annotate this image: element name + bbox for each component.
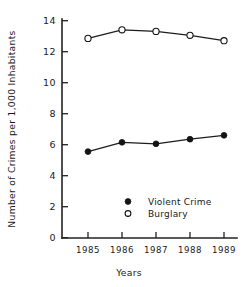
y-tick-label-10: 10 — [43, 77, 56, 88]
legend-open-circle-icon — [125, 211, 131, 217]
violent-crime-point-1988 — [187, 136, 193, 142]
chart-canvas: 14 12 10 8 6 4 2 0 1985 1986 1987 1988 1… — [0, 0, 245, 287]
series-violent-crime — [85, 132, 227, 154]
x-tick-label-1988: 1988 — [178, 245, 202, 255]
y-tick-label-6: 6 — [50, 139, 56, 150]
x-tick-label-1987: 1987 — [144, 245, 168, 255]
legend-entry-burglary: Burglary — [125, 209, 188, 219]
violent-crime-point-1989 — [221, 132, 227, 138]
y-axis-title: Number of Crimes per 1,000 Inhabitants — [6, 30, 17, 227]
chart-legend: Violent Crime Burglary — [125, 197, 212, 219]
y-tick-label-8: 8 — [50, 108, 56, 119]
y-tick-label-14: 14 — [43, 15, 56, 26]
burglary-point-1985 — [85, 35, 91, 41]
violent-crime-point-1987 — [153, 141, 159, 147]
x-axis-ticks — [88, 232, 224, 238]
y-tick-label-12: 12 — [43, 46, 56, 57]
legend-entry-violent-crime: Violent Crime — [125, 197, 212, 207]
x-tick-label-1989: 1989 — [212, 245, 236, 255]
burglary-point-1986 — [119, 27, 125, 33]
legend-filled-circle-icon — [125, 199, 131, 205]
x-axis-tick-labels: 1985 1986 1987 1988 1989 — [76, 245, 236, 255]
burglary-point-1989 — [221, 38, 227, 44]
burglary-point-1988 — [187, 32, 193, 38]
x-axis-title: Years — [115, 267, 142, 278]
burglary-point-1987 — [153, 28, 159, 34]
y-tick-label-0: 0 — [50, 232, 56, 243]
y-axis-tick-labels: 14 12 10 8 6 4 2 0 — [43, 15, 56, 243]
legend-label-violent-crime: Violent Crime — [148, 197, 212, 207]
y-axis-ticks — [62, 21, 68, 238]
y-tick-label-4: 4 — [50, 170, 56, 181]
series-burglary — [85, 27, 227, 44]
x-tick-label-1986: 1986 — [110, 245, 134, 255]
violent-crime-point-1985 — [85, 149, 91, 155]
violent-crime-point-1986 — [119, 139, 125, 145]
legend-label-burglary: Burglary — [148, 209, 188, 219]
y-tick-label-2: 2 — [50, 201, 56, 212]
x-tick-label-1985: 1985 — [76, 245, 100, 255]
crime-rate-line-chart: 14 12 10 8 6 4 2 0 1985 1986 1987 1988 1… — [0, 0, 245, 287]
